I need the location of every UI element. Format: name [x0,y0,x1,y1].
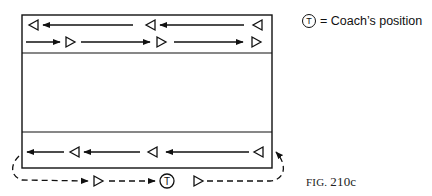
legend-text: = Coach’s position [320,14,422,28]
court-outline [22,15,272,168]
coach-symbol-icon: T [302,14,316,28]
player-right-icon [252,37,261,47]
player-left-icon [70,147,79,157]
drill-diagram: T [0,0,432,196]
legend: T = Coach’s position [302,14,422,28]
top-row-2 [26,37,261,47]
player-left-icon [253,20,262,30]
player-right-icon [94,176,103,186]
caption-prefix: FIG. [306,176,327,188]
bottom-row [27,147,263,157]
top-row-1 [29,20,262,30]
player-left-icon [148,147,157,157]
player-left-icon [254,147,263,157]
player-left-icon [146,20,155,30]
coach-label: T [164,176,170,187]
player-right-icon [66,37,75,47]
rotation-path: T [13,152,284,188]
player-left-icon [29,20,38,30]
player-right-icon [194,176,203,186]
caption-number: 210c [330,174,356,189]
figure-caption: FIG. 210c [306,174,356,190]
player-right-icon [157,37,166,47]
